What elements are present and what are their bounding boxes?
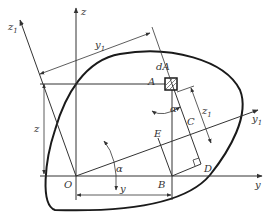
label-dA: dA xyxy=(156,61,170,72)
rotation-of-axes-diagram: z z1 y1 dA A z1 α C y1 E z α D O B y y xyxy=(0,0,269,220)
label-E: E xyxy=(153,128,162,139)
label-C: C xyxy=(187,116,195,127)
label-dim-y1: y1 xyxy=(94,39,105,53)
label-A: A xyxy=(147,76,155,87)
label-z: z xyxy=(80,6,87,17)
label-y: y xyxy=(254,179,261,190)
label-dim-y: y xyxy=(119,183,126,194)
section-outline xyxy=(46,51,243,210)
b-to-d-line xyxy=(172,164,201,176)
label-alpha: α xyxy=(116,163,123,174)
label-O: O xyxy=(64,179,72,190)
label-y1: y1 xyxy=(251,113,262,127)
label-B: B xyxy=(157,179,165,190)
label-D: D xyxy=(203,163,212,174)
diagram-canvas: z z1 y1 dA A z1 α C y1 E z α D O B y y xyxy=(0,0,269,220)
label-alpha-a: α xyxy=(170,103,177,114)
label-dim-z: z xyxy=(33,123,40,134)
label-dim-z1: z1 xyxy=(201,105,212,119)
label-z1: z1 xyxy=(7,21,18,35)
